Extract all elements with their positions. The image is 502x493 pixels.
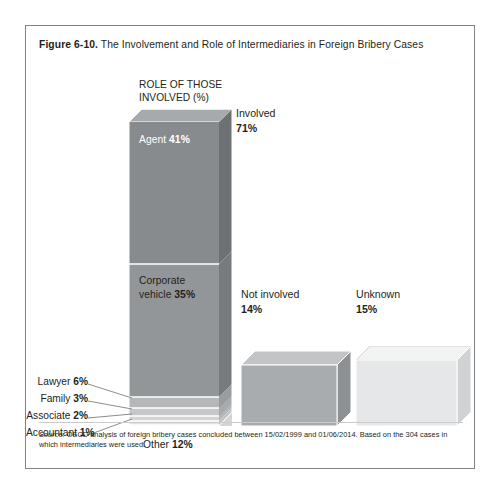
source-divider (39, 422, 463, 423)
axis-heading: ROLE OF THOSE INVOLVED (%) (139, 78, 222, 104)
bar-caption-involved-value: 71% (236, 122, 257, 134)
callout-family-name: Family (40, 393, 70, 404)
segment-label-corporate-vehicle: Corporate vehicle 35% (139, 274, 195, 301)
callout-lawyer-value: 6% (73, 376, 88, 387)
bar-not-involved[interactable] (241, 351, 351, 426)
callout-family: Family 3% (26, 393, 88, 404)
callout-lawyer: Lawyer 6% (26, 376, 88, 387)
bar-unknown[interactable] (356, 346, 471, 426)
bar-not-involved-3d-shape (241, 351, 351, 426)
bar-involved-3d-shape (129, 109, 232, 426)
source-label: Source: (39, 430, 65, 439)
bar-caption-not-involved-name: Not involved (241, 288, 299, 300)
bar-caption-unknown: Unknown 15% (356, 287, 400, 316)
source-note: Source: OECD analysis of foreign bribery… (39, 430, 465, 450)
source-text: OECD analysis of foreign bribery cases c… (39, 430, 447, 449)
segment-value-corporate-vehicle: 35% (174, 289, 195, 300)
segment-value-agent: 41% (169, 134, 190, 145)
segment-name-agent: Agent (139, 134, 166, 145)
callout-associate-name: Associate (26, 410, 70, 421)
bar-caption-unknown-value: 15% (356, 303, 377, 315)
callout-lawyer-name: Lawyer (38, 376, 71, 387)
bar-involved[interactable]: Agent 41% Corporate vehicle 35% Other 12… (129, 109, 232, 426)
figure-container: Figure 6-10. The Involvement and Role of… (25, 25, 475, 469)
bar-caption-not-involved: Not involved 14% (241, 287, 299, 316)
bar-unknown-3d-shape (356, 346, 471, 426)
segment-label-agent: Agent 41% (139, 133, 190, 147)
callout-family-value: 3% (73, 393, 88, 404)
bar-caption-involved: Involved 71% (236, 106, 275, 135)
chart-plot-area: ROLE OF THOSE INVOLVED (%) (26, 26, 474, 468)
bar-caption-not-involved-value: 14% (241, 303, 262, 315)
bar-caption-unknown-name: Unknown (356, 288, 400, 300)
callout-associate-value: 2% (73, 410, 88, 421)
bar-caption-involved-name: Involved (236, 107, 275, 119)
callout-associate: Associate 2% (26, 410, 88, 421)
